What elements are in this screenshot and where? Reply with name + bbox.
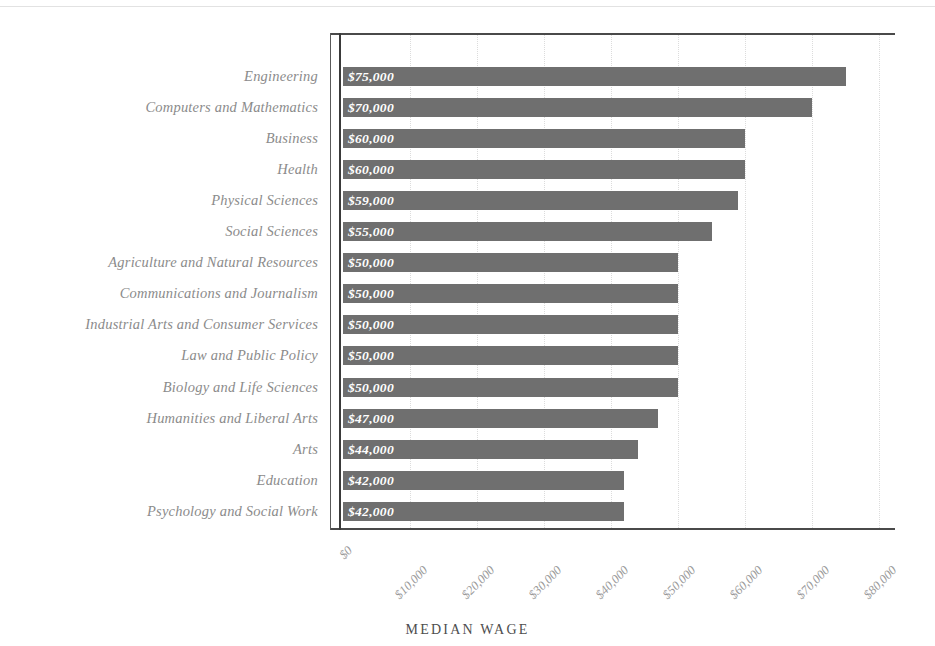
bar-value-label: $60,000 [348,129,394,148]
bar-value-label: $44,000 [348,440,394,459]
category-label: Computers and Mathematics [0,98,318,116]
category-label: Industrial Arts and Consumer Services [0,315,318,333]
bar [343,222,712,241]
value-axis-tick-labels: $0$10,000$20,000$30,000$40,000$50,000$60… [330,533,895,603]
bar-row: $60,000 [343,129,745,148]
bar-row: $50,000 [343,284,678,303]
x-tick-label-text: $50,000 [660,563,699,602]
category-label: Business [0,129,318,147]
bar-row: $60,000 [343,160,745,179]
bar [343,98,812,117]
bar [343,129,745,148]
bar-row: $47,000 [343,409,658,428]
x-tick-label: $60,000 [755,534,794,573]
x-tick-label-text: $60,000 [727,563,766,602]
x-tick-label: $70,000 [822,534,861,573]
bar-value-label: $55,000 [348,222,394,241]
bar-value-label: $60,000 [348,160,394,179]
x-tick-label-text: $20,000 [459,563,498,602]
bar-value-label: $50,000 [348,378,394,397]
category-label: Social Sciences [0,222,318,240]
bar-value-label: $50,000 [348,315,394,334]
x-tick-label: $30,000 [554,534,593,573]
bar-row: $50,000 [343,315,678,334]
bar-row: $42,000 [343,471,624,490]
category-label: Arts [0,440,318,458]
category-label: Communications and Journalism [0,284,318,302]
bar [343,67,846,86]
bar-value-label: $42,000 [348,502,394,521]
bar-row: $44,000 [343,440,638,459]
bar-row: $50,000 [343,346,678,365]
bar-value-label: $50,000 [348,253,394,272]
category-label: Health [0,160,318,178]
x-tick-label: $20,000 [487,534,526,573]
x-tick-label-text: $40,000 [593,563,632,602]
bar [343,160,745,179]
bar-value-label: $75,000 [348,67,394,86]
category-label: Physical Sciences [0,191,318,209]
bar-row: $75,000 [343,67,846,86]
category-label: Engineering [0,67,318,85]
bar-row: $70,000 [343,98,812,117]
category-label: Education [0,471,318,489]
bar-value-label: $70,000 [348,98,394,117]
bar-row: $59,000 [343,191,738,210]
bar-value-label: $59,000 [348,191,394,210]
x-tick-label: $80,000 [889,534,928,573]
category-label: Agriculture and Natural Resources [0,253,318,271]
bar-row: $55,000 [343,222,712,241]
x-tick-label: $10,000 [420,534,459,573]
x-tick-label: $0 [345,534,364,553]
x-tick-label-text: $0 [336,543,355,562]
x-tick-label-text: $70,000 [794,563,833,602]
plot-area: $75,000$70,000$60,000$60,000$59,000$55,0… [330,33,895,530]
category-label: Humanities and Liberal Arts [0,409,318,427]
category-axis-labels: EngineeringComputers and MathematicsBusi… [0,33,318,530]
bar-value-label: $50,000 [348,284,394,303]
x-axis-title: MEDIAN WAGE [0,622,935,638]
x-tick-label: $40,000 [621,534,660,573]
bar-row: $50,000 [343,378,678,397]
x-tick-label-text: $80,000 [861,563,900,602]
bar-value-label: $47,000 [348,409,394,428]
bar-value-label: $50,000 [348,346,394,365]
bar-row: $50,000 [343,253,678,272]
category-label: Law and Public Policy [0,346,318,364]
median-wage-bar-chart: EngineeringComputers and MathematicsBusi… [0,0,935,646]
bar [343,191,738,210]
x-tick-label: $50,000 [688,534,727,573]
x-tick-label-text: $10,000 [392,563,431,602]
category-label: Biology and Life Sciences [0,378,318,396]
bar-value-label: $42,000 [348,471,394,490]
x-tick-label-text: $30,000 [526,563,565,602]
bar-row: $42,000 [343,502,624,521]
bar-series: $75,000$70,000$60,000$60,000$59,000$55,0… [330,33,895,530]
category-label: Psychology and Social Work [0,502,318,520]
